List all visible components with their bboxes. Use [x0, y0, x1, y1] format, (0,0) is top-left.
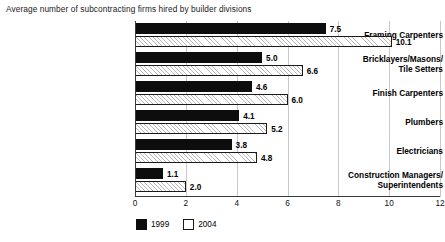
plot-area: 7.510.15.06.64.66.04.15.23.84.81.12.0: [135, 21, 440, 197]
bar-row: 4.1: [135, 110, 440, 121]
bar-value-label: 4.1: [239, 111, 254, 120]
bar-row: 7.5: [135, 23, 440, 34]
bar-value-label: 5.0: [262, 53, 277, 62]
bar-1999-2: [135, 81, 252, 92]
bar-2004-5: [135, 181, 186, 192]
chart-legend: 1999 2004: [136, 219, 216, 230]
bar-1999-4: [135, 139, 232, 150]
bar-value-label: 4.8: [257, 153, 272, 162]
x-tick-label: 2: [184, 199, 189, 208]
x-tick-label: 0: [133, 199, 138, 208]
bar-row: 3.8: [135, 139, 440, 150]
bar-2004-0: [135, 36, 392, 47]
legend-swatch-2004: [183, 219, 194, 230]
bar-value-label: 1.1: [163, 169, 178, 178]
bar-value-label: 6.6: [303, 66, 318, 75]
bar-2004-1: [135, 65, 303, 76]
bar-2004-2: [135, 94, 288, 105]
x-tick-label: 4: [234, 199, 239, 208]
bar-row: 5.2: [135, 123, 440, 134]
bar-row: 6.0: [135, 94, 440, 105]
bar-row: 5.0: [135, 52, 440, 63]
legend-swatch-1999: [136, 219, 147, 230]
bar-value-label: 6.0: [288, 95, 303, 104]
x-tick-label: 8: [336, 199, 341, 208]
bar-1999-1: [135, 52, 262, 63]
x-tick-label: 6: [285, 199, 290, 208]
y-axis-line: [135, 21, 136, 197]
x-axis-line: [135, 196, 440, 197]
bar-value-label: 10.1: [392, 37, 412, 46]
x-tick-label: 12: [435, 199, 444, 208]
bar-row: 1.1: [135, 168, 440, 179]
legend-label-2004: 2004: [198, 220, 216, 229]
bar-1999-5: [135, 168, 163, 179]
bar-row: 4.6: [135, 81, 440, 92]
legend-item-1999: 1999: [136, 219, 169, 230]
bar-value-label: 2.0: [186, 182, 201, 191]
bar-2004-3: [135, 123, 267, 134]
chart-title: Average number of subcontracting firms h…: [6, 4, 252, 15]
x-tick-label: 10: [385, 199, 394, 208]
bar-value-label: 3.8: [232, 140, 247, 149]
legend-item-2004: 2004: [183, 219, 216, 230]
bar-row: 6.6: [135, 65, 440, 76]
legend-label-1999: 1999: [151, 220, 169, 229]
bar-value-label: 5.2: [267, 124, 282, 133]
bar-value-label: 4.6: [252, 82, 267, 91]
bar-value-label: 7.5: [326, 24, 341, 33]
bar-row: 2.0: [135, 181, 440, 192]
bar-row: 4.8: [135, 152, 440, 163]
bar-row: 10.1: [135, 36, 440, 47]
bar-1999-3: [135, 110, 239, 121]
bar-1999-0: [135, 23, 326, 34]
bar-2004-4: [135, 152, 257, 163]
